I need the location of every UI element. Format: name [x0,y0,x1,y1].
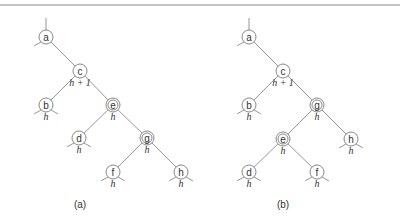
edge-e-d [254,144,278,167]
subtree-stub-down-right [51,110,58,114]
node-a: a [34,18,53,46]
node-label: b [246,100,252,111]
height-label: h [247,111,252,122]
node-label: e [280,134,286,145]
trees: ach + 1bhehdhghfhhh(a)ach + 1bhghehhhdhf… [34,18,363,210]
height-label: h + 1 [69,77,91,88]
subtree-stub-down-left [237,42,244,46]
node-label: a [43,32,49,43]
subtree-stub-down-right [322,177,329,181]
height-label: h [77,144,82,155]
subtree-stub-down-right [254,110,261,114]
subtree-stub-down-left [34,42,41,46]
subtree-stub-down-left [339,144,346,148]
tree-a: ach + 1bhehdhghfhhh(a) [34,18,193,210]
height-label: h [44,111,49,122]
node-h: hh [169,165,193,189]
subtree-stub-down-left [34,110,41,114]
node-label: h [348,134,354,145]
subtree-stub-down-left [305,177,312,181]
node-g: gh [140,131,154,155]
edge-g-h [322,110,346,134]
node-f: fh [101,165,125,189]
node-d: dh [237,165,261,189]
edge-e-f [288,144,312,167]
caption-b: (b) [277,199,289,210]
node-label: h [178,167,184,178]
height-label: h [179,178,184,189]
edge-a-c [51,42,75,66]
height-label: h [315,178,320,189]
node-label: g [314,100,320,111]
subtree-stub-down-right [118,177,125,181]
height-label: h [247,178,252,189]
subtree-stub-down-left [67,143,74,147]
node-label: f [316,167,319,178]
height-label: h [145,144,150,155]
tree-rotation-diagram: ach + 1bhehdhghfhhh(a)ach + 1bhghehhhdhf… [0,0,420,221]
tree-b: ach + 1bhghehhhdhfh(b) [237,18,363,210]
caption-a: (a) [74,199,86,210]
node-e: eh [276,132,290,156]
node-label: a [246,32,252,43]
subtree-stub-down-right [254,177,261,181]
node-label: d [246,167,252,178]
node-label: g [144,133,150,144]
height-label: h [281,145,286,156]
edge-e-d [84,110,108,133]
height-label: h [349,145,354,156]
node-e: eh [106,98,120,122]
subtree-stub-down-left [237,110,244,114]
node-h: hh [339,132,363,156]
node-a: a [237,18,256,46]
edge-g-h [152,143,176,167]
height-label: h [111,178,116,189]
node-c: ch + 1 [69,64,91,88]
node-f: fh [305,165,329,189]
node-b: bh [34,98,58,122]
node-label: d [76,133,82,144]
node-label: f [112,167,115,178]
edge-g-f [118,143,142,167]
height-label: h + 1 [272,77,294,88]
node-label: c [78,66,83,77]
node-b: bh [237,98,261,122]
subtree-stub-down-right [84,143,91,147]
node-d: dh [67,131,91,155]
height-label: h [111,111,116,122]
subtree-stub-down-left [101,177,108,181]
node-label: b [43,100,49,111]
edge-e-g [118,110,142,133]
node-g: gh [310,98,324,122]
edge-a-c [254,42,278,66]
node-label: e [110,100,116,111]
edge-g-e [288,110,312,134]
subtree-stub-down-left [237,177,244,181]
height-label: h [315,111,320,122]
subtree-stub-down-right [356,144,363,148]
node-c: ch + 1 [272,64,294,88]
node-label: c [281,66,286,77]
subtree-stub-down-left [169,177,176,181]
subtree-stub-down-right [186,177,193,181]
